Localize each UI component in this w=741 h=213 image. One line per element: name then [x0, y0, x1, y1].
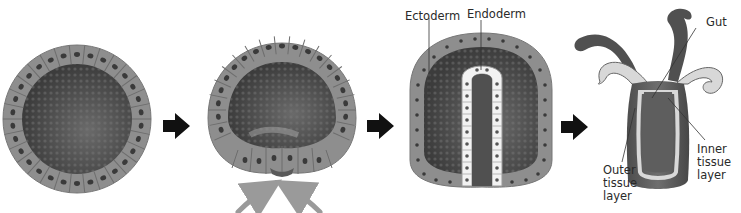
gastrulation-start-stage [208, 36, 356, 177]
gut-label: Gut [706, 16, 727, 29]
embryo-development-diagram: Ectoderm Endoderm Gut Outer tissue layer… [0, 0, 741, 213]
arrow-right-icon [367, 113, 394, 139]
gastrula-stage [410, 18, 552, 187]
ectoderm-label: Ectoderm [405, 10, 460, 23]
outer-tissue-layer-label: Outer tissue layer [603, 164, 637, 203]
arrow-right-icon [561, 114, 588, 140]
invagination-arrows [238, 190, 320, 212]
endoderm-label: Endoderm [467, 8, 526, 21]
arrow-right-icon [163, 113, 190, 139]
blastula-stage [3, 45, 151, 193]
inner-tissue-layer-label: Inner tissue layer [697, 143, 731, 182]
